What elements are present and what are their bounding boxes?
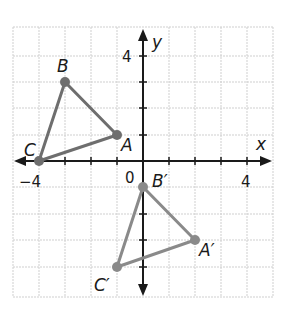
- x-axis-arrow-right-icon: [260, 156, 272, 166]
- origin-label: 0: [125, 169, 135, 187]
- coordinate-plane: x y 0 −4 4 4 A B C A′ B′ C′: [0, 0, 285, 313]
- y-axis-arrow-up-icon: [138, 29, 148, 41]
- point-c-prime: [112, 262, 122, 272]
- y-tick-label-4: 4: [122, 48, 132, 66]
- label-a: A: [120, 135, 133, 155]
- label-b: B: [57, 56, 69, 76]
- x-tick-label-4: 4: [241, 173, 251, 191]
- label-a-prime: A′: [198, 240, 215, 260]
- y-axis-arrow-down-icon: [138, 284, 148, 296]
- x-tick-label-neg4: −4: [19, 173, 41, 191]
- axes: [14, 29, 272, 296]
- label-c-prime: C′: [94, 275, 110, 295]
- label-b-prime: B′: [152, 171, 168, 191]
- point-b: [60, 77, 70, 87]
- label-c: C: [24, 140, 36, 160]
- point-b-prime: [138, 182, 148, 192]
- x-axis-label: x: [255, 134, 267, 154]
- triangle-a-prime-b-prime-c-prime: [112, 182, 200, 272]
- y-axis-label: y: [151, 32, 163, 52]
- triangle-abc: [34, 77, 122, 166]
